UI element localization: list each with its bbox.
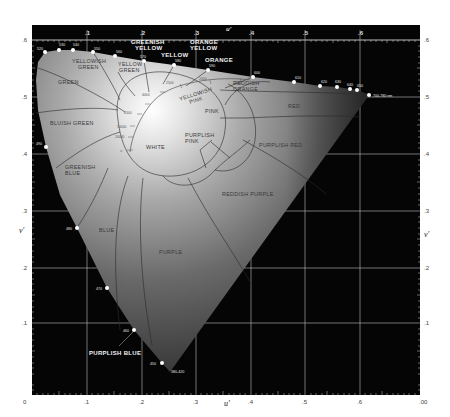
svg-text:570: 570 bbox=[140, 55, 146, 59]
svg-text:.5: .5 bbox=[424, 94, 430, 100]
svg-text:.6: .6 bbox=[357, 399, 363, 405]
svg-text:0: 0 bbox=[23, 399, 27, 405]
svg-text:.5: .5 bbox=[22, 94, 28, 100]
svg-text:.3: .3 bbox=[194, 30, 200, 36]
svg-text:.6: .6 bbox=[22, 37, 28, 43]
svg-text:630: 630 bbox=[335, 80, 341, 84]
temp-label-10000: 10000 bbox=[117, 125, 127, 129]
svg-text:580: 580 bbox=[175, 59, 181, 63]
left-axis-labels: .6 .5 .4 .3 .2 .1 v' bbox=[19, 37, 28, 326]
svg-text:.2: .2 bbox=[424, 265, 430, 271]
svg-text:.1: .1 bbox=[424, 320, 430, 326]
svg-text:590: 590 bbox=[209, 64, 215, 68]
temp-label-2000: 2000 bbox=[199, 77, 207, 81]
v-axis-title-right: v' bbox=[424, 230, 430, 239]
svg-text:.6: .6 bbox=[424, 37, 430, 43]
label-orange: ORANGE bbox=[205, 57, 233, 63]
svg-text:.3: .3 bbox=[22, 208, 28, 214]
label-orange-yellow-2: YELLOW bbox=[190, 45, 218, 51]
svg-text:.4: .4 bbox=[22, 151, 28, 157]
svg-text:.2: .2 bbox=[22, 265, 28, 271]
svg-text:.4: .4 bbox=[249, 30, 255, 36]
label-purplish-blue: PURPLISH BLUE bbox=[89, 350, 141, 356]
label-pink: PINK bbox=[205, 108, 219, 114]
label-red: RED bbox=[288, 103, 300, 109]
svg-text:.5: .5 bbox=[302, 399, 308, 405]
svg-text:.1: .1 bbox=[84, 399, 90, 405]
svg-text:.2: .2 bbox=[140, 30, 146, 36]
svg-text:640: 640 bbox=[347, 83, 353, 87]
svg-text:.4: .4 bbox=[424, 151, 430, 157]
svg-text:.4: .4 bbox=[248, 399, 254, 405]
svg-text:.2: .2 bbox=[139, 399, 145, 405]
svg-text:700-780 nm: 700-780 nm bbox=[373, 94, 392, 98]
label-reddish-orange-2: ORANGE bbox=[233, 86, 258, 92]
v-axis-title-left: v' bbox=[19, 226, 25, 235]
label-greenish-yellow-2: YELLOW bbox=[135, 45, 163, 51]
svg-text:490: 490 bbox=[36, 142, 42, 146]
label-yellow-green-2: GREEN bbox=[119, 67, 140, 73]
temp-label-6500: 6500 bbox=[124, 111, 132, 115]
svg-text:610: 610 bbox=[295, 76, 301, 80]
svg-text:460: 460 bbox=[123, 329, 129, 333]
label-yellowish-green-2: GREEN bbox=[78, 64, 99, 70]
label-yellow: YELLOW bbox=[161, 52, 189, 58]
bottom-axis-labels: 0 .1 .2 .3 .4 .5 .6 .0 u' bbox=[23, 399, 425, 408]
svg-text:450: 450 bbox=[150, 362, 156, 366]
label-greenish-blue-2: BLUE bbox=[65, 170, 80, 176]
svg-text:560: 560 bbox=[116, 50, 122, 54]
svg-text:550: 550 bbox=[94, 47, 100, 51]
svg-text:.1: .1 bbox=[85, 30, 91, 36]
svg-text:u': u' bbox=[226, 26, 232, 32]
u-axis-title: u' bbox=[224, 399, 230, 408]
svg-text:480: 480 bbox=[66, 227, 72, 231]
label-green: GREEN bbox=[58, 79, 79, 85]
right-axis-labels: .6 .5 .4 .3 .2 .1 0 v' bbox=[424, 37, 430, 405]
temp-label-4000: 4000 bbox=[142, 93, 150, 97]
svg-text:530: 530 bbox=[59, 43, 65, 47]
label-purple: PURPLE bbox=[159, 249, 182, 255]
svg-text:0: 0 bbox=[424, 399, 428, 405]
svg-text:.6: .6 bbox=[358, 30, 364, 36]
svg-text:.5: .5 bbox=[303, 30, 309, 36]
svg-text:650: 650 bbox=[357, 84, 363, 88]
temp-label-20000: 20000 bbox=[115, 135, 125, 139]
label-blue: BLUE bbox=[99, 227, 114, 233]
svg-text:380-420: 380-420 bbox=[171, 370, 184, 374]
svg-text:540: 540 bbox=[73, 43, 79, 47]
label-bluish-green: BLUISH GREEN bbox=[50, 120, 94, 126]
svg-text:520: 520 bbox=[37, 47, 43, 51]
label-purplish-red: PURPLISH RED bbox=[259, 142, 302, 148]
svg-text:.3: .3 bbox=[424, 208, 430, 214]
label-purplish-pink-2: PINK bbox=[185, 138, 199, 144]
svg-text:.1: .1 bbox=[22, 320, 28, 326]
svg-text:470: 470 bbox=[96, 287, 102, 291]
label-reddish-purple: REDDISH PURPLE bbox=[222, 191, 274, 197]
svg-text:.3: .3 bbox=[193, 399, 199, 405]
svg-text:620: 620 bbox=[321, 80, 327, 84]
label-white: WHITE bbox=[146, 144, 165, 150]
chromaticity-diagram: 20000 ∞ 10000 6500 4000 2500 2000 1500 Y… bbox=[0, 0, 450, 417]
temp-label-2500: 2500 bbox=[166, 81, 174, 85]
svg-text:600: 600 bbox=[254, 71, 260, 75]
